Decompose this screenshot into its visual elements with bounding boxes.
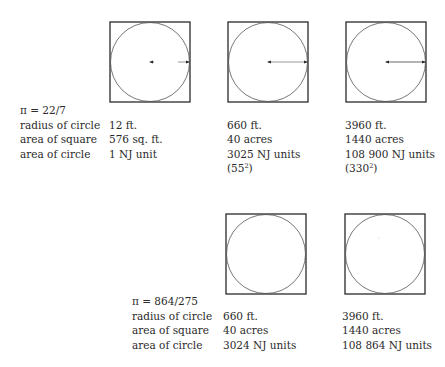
circle-area-value: 3025 NJ units [227,147,300,162]
circle-area-value: 1 NJ unit [109,147,163,162]
circle-area-value: 3024 NJ units [223,338,296,353]
row2-col1-values: 660 ft. 40 acres 3024 NJ units [223,309,296,353]
radius-value: 660 ft. [223,309,296,324]
row1-col2-values: 660 ft. 40 acres 3025 NJ units (552) [227,118,300,176]
pi-label: π = 22/7 [20,103,100,118]
row2-labels: π = 864/275 radius of circle area of squ… [132,294,212,352]
label-circle-area: area of circle [20,147,100,162]
square-circle-figure-660ft-alt [225,213,309,297]
square-area-value: 40 acres [227,132,300,147]
square-note: (552) [227,161,300,176]
row1-labels: π = 22/7 radius of circle area of square… [20,103,100,161]
square-area-value: 40 acres [223,323,296,338]
row2-col2-values: 3960 ft. 1440 acres 108 864 NJ units [342,309,432,353]
square-circle-figure-3960ft-alt [344,213,428,297]
square-circle-figure-3960ft [345,21,429,105]
circle-area-value: 108 864 NJ units [342,338,432,353]
label-square-area: area of square [132,323,212,338]
label-circle-area: area of circle [132,338,212,353]
circle-area-value: 108 900 NJ units [345,147,435,162]
radius-value: 12 ft. [109,118,163,133]
label-radius: radius of circle [20,118,100,133]
square-area-value: 1440 acres [342,323,432,338]
square-note: (3302) [345,161,435,176]
radius-value: 3960 ft. [342,309,432,324]
row1-col1-values: 12 ft. 576 sq. ft. 1 NJ unit [109,118,163,162]
square-circle-figure-660ft [227,21,311,105]
row1-col3-values: 3960 ft. 1440 acres 108 900 NJ units (33… [345,118,435,176]
pi-label: π = 864/275 [132,294,212,309]
radius-value: 660 ft. [227,118,300,133]
label-square-area: area of square [20,132,100,147]
square-circle-figure-12ft [109,21,193,105]
label-radius: radius of circle [132,309,212,324]
square-area-value: 1440 acres [345,132,435,147]
square-area-value: 576 sq. ft. [109,132,163,147]
radius-value: 3960 ft. [345,118,435,133]
